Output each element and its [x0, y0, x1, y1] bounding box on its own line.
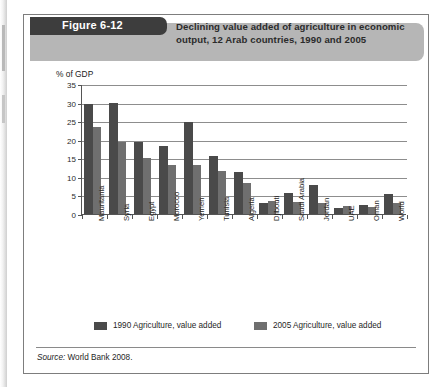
- bar-group: [307, 84, 332, 214]
- x-axis-tick: [82, 215, 83, 219]
- x-axis-label: Algeria: [247, 197, 256, 221]
- bar-group: [232, 84, 257, 214]
- source-divider: [36, 347, 416, 348]
- bar-group: [257, 84, 282, 214]
- figure-card: Figure 6-12 Declining value added of agr…: [23, 14, 429, 374]
- bar-1990: [334, 208, 343, 214]
- bar-1990: [209, 156, 218, 214]
- x-axis-label: Mauritania: [97, 186, 106, 221]
- figure-title: Declining value added of agriculture in …: [176, 21, 412, 46]
- bar-1990: [284, 193, 293, 214]
- y-axis-tick-label: 25: [67, 118, 76, 127]
- bar-1990: [134, 142, 143, 214]
- x-axis-label: Djibouti: [272, 196, 281, 221]
- bar-1990: [234, 172, 243, 214]
- y-axis-tick-label: 35: [67, 81, 76, 90]
- x-axis-tick: [107, 215, 108, 219]
- bar-1990: [159, 146, 168, 214]
- y-axis-tick-label: 0: [72, 211, 76, 220]
- y-axis-tick-label: 15: [67, 155, 76, 164]
- bar-1990: [184, 122, 193, 214]
- legend-swatch: [254, 322, 267, 330]
- bar-group: [107, 84, 132, 214]
- x-axis-tick: [357, 215, 358, 219]
- bar-group: [382, 84, 407, 214]
- legend-label: 2005 Agriculture, value added: [273, 321, 381, 330]
- bar-1990: [84, 104, 93, 214]
- scan-artifact-mark: [2, 25, 5, 71]
- x-axis-tick: [407, 215, 408, 219]
- x-axis-label: Yemen: [197, 198, 206, 221]
- x-axis-label: Saudi Arabia: [297, 178, 306, 221]
- x-axis-tick: [307, 215, 308, 219]
- bars-layer: [82, 84, 407, 214]
- y-axis-tick-label: 20: [67, 136, 76, 145]
- x-axis-label: Oman: [372, 200, 381, 221]
- chart-area: % of GDP 05101520253035 MauritaniaSyriaE…: [24, 67, 428, 319]
- figure-number-tag: Figure 6-12: [30, 17, 167, 35]
- x-axis-tick: [257, 215, 258, 219]
- figure-number-label: Figure 6-12: [62, 19, 123, 31]
- bar-1990: [109, 103, 118, 214]
- bar-group: [357, 84, 382, 214]
- legend-label: 1990 Agriculture, value added: [113, 321, 221, 330]
- figure-header: Figure 6-12 Declining value added of agr…: [24, 17, 428, 63]
- plot-box: 05101520253035 MauritaniaSyriaEgyptMoroc…: [81, 85, 406, 215]
- y-axis-tick-label: 30: [67, 99, 76, 108]
- x-axis-tick: [382, 215, 383, 219]
- scan-artifact-mark: [2, 95, 5, 123]
- x-axis-label: Tunisia: [222, 197, 231, 221]
- legend-item: 1990 Agriculture, value added: [94, 321, 221, 330]
- bar-group: [332, 84, 357, 214]
- x-axis-tick: [132, 215, 133, 219]
- x-axis-label: Syria: [122, 204, 131, 221]
- bar-group: [182, 84, 207, 214]
- x-axis-tick: [332, 215, 333, 219]
- source-label: Source:: [37, 353, 65, 362]
- bar-1990: [384, 194, 393, 214]
- x-axis-label: Egypt: [147, 202, 156, 221]
- x-axis-label: Jordan: [322, 198, 331, 221]
- source-note: Source: World Bank 2008.: [37, 353, 132, 362]
- chart-legend: 1990 Agriculture, value added2005 Agricu…: [24, 321, 428, 337]
- x-axis-label: UAE: [347, 205, 356, 221]
- x-axis-label: Morocco: [172, 192, 181, 221]
- x-axis-tick: [232, 215, 233, 219]
- bar-1990: [359, 205, 368, 214]
- legend-item: 2005 Agriculture, value added: [254, 321, 381, 330]
- bar-group: [207, 84, 232, 214]
- bar-group: [132, 84, 157, 214]
- x-axis-tick: [182, 215, 183, 219]
- y-axis-title: % of GDP: [56, 69, 93, 79]
- y-axis-tick-label: 10: [67, 173, 76, 182]
- source-text: World Bank 2008.: [68, 353, 133, 362]
- bar-1990: [309, 185, 318, 214]
- x-axis-tick: [282, 215, 283, 219]
- x-axis-label: World: [397, 201, 406, 221]
- x-axis-tick: [157, 215, 158, 219]
- y-axis-tick-label: 5: [72, 192, 76, 201]
- legend-swatch: [94, 322, 107, 330]
- bar-1990: [259, 203, 268, 214]
- x-axis-tick: [207, 215, 208, 219]
